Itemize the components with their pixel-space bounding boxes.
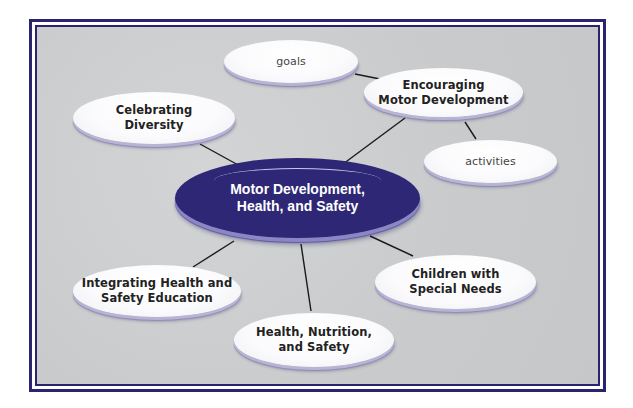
node-label: activities: [465, 154, 516, 169]
node-label: Children with Special Needs: [409, 267, 501, 297]
node-health-nutrition-safety: Health, Nutrition, and Safety: [234, 313, 394, 367]
link-center-children: [370, 236, 413, 256]
link-center-integrating: [193, 241, 234, 267]
node-label: Encouraging Motor Development: [378, 78, 508, 108]
link-center-encouraging: [343, 118, 405, 164]
node-goals: goals: [224, 40, 358, 83]
central-topic: Motor Development, Health, and Safety: [175, 158, 420, 238]
node-label: Integrating Health and Safety Education: [82, 276, 232, 306]
node-children-special-needs: Children with Special Needs: [375, 255, 536, 309]
node-integrating-health-safety-education: Integrating Health and Safety Education: [73, 265, 241, 317]
central-topic-label: Motor Development, Health, and Safety: [230, 181, 365, 215]
node-label: Celebrating Diversity: [116, 103, 193, 133]
node-activities: activities: [424, 140, 557, 183]
node-label: goals: [276, 54, 306, 69]
link-encouraging-activities: [465, 122, 476, 139]
node-encouraging-motor-development: Encouraging Motor Development: [364, 68, 523, 117]
link-center-health: [301, 244, 311, 311]
node-label: Health, Nutrition, and Safety: [256, 325, 372, 355]
node-celebrating-diversity: Celebrating Diversity: [73, 92, 235, 144]
